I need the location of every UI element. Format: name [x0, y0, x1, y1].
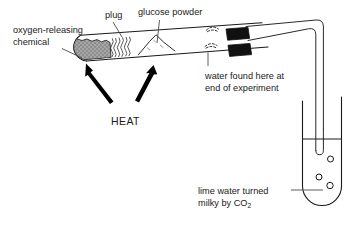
- glucose-powder-mound: [138, 35, 177, 56]
- heat-arrow-left: [85, 64, 113, 105]
- label-lime-water-prefix: milky by CO: [198, 198, 248, 208]
- apparatus-diagram: oxygen-releasing chemical plug glucose p…: [0, 0, 362, 228]
- leader-plug: [113, 22, 122, 37]
- delivery-tube-tip: [316, 129, 324, 155]
- label-lime-water-subscript: 2: [248, 202, 252, 209]
- label-oxygen-releasing-line2: chemical: [13, 37, 49, 47]
- label-water-found-line1: water found here at: [204, 71, 285, 81]
- lime-water-test-tube: [303, 97, 342, 206]
- bubble-1: [328, 156, 334, 162]
- diagram-root: oxygen-releasing chemical plug glucose p…: [0, 0, 362, 228]
- plug-mass: [111, 37, 131, 58]
- label-oxygen-releasing-line1: oxygen-releasing: [13, 25, 83, 35]
- label-glucose-powder: glucose powder: [138, 7, 202, 17]
- rubber-bung: [226, 27, 252, 56]
- leader-glucose-powder: [157, 20, 160, 43]
- water-droplet-marks: [205, 27, 219, 48]
- label-plug: plug: [105, 10, 122, 20]
- bung-block-lower: [228, 43, 252, 56]
- label-water-found-line2: end of experiment: [205, 83, 279, 93]
- bubble-2: [316, 174, 322, 180]
- bung-block-upper: [226, 27, 250, 40]
- bubble-3: [327, 182, 333, 188]
- label-heat: HEAT: [111, 115, 140, 127]
- label-lime-water-line2: milky by CO2: [198, 198, 252, 210]
- glucose-mound-outline: [138, 35, 177, 56]
- heat-arrows: [85, 64, 157, 105]
- label-lime-water-line1: lime water turned: [198, 186, 268, 196]
- gas-bubbles: [316, 156, 334, 189]
- collection-tube-outline: [303, 97, 342, 206]
- heat-arrow-right: [135, 65, 157, 103]
